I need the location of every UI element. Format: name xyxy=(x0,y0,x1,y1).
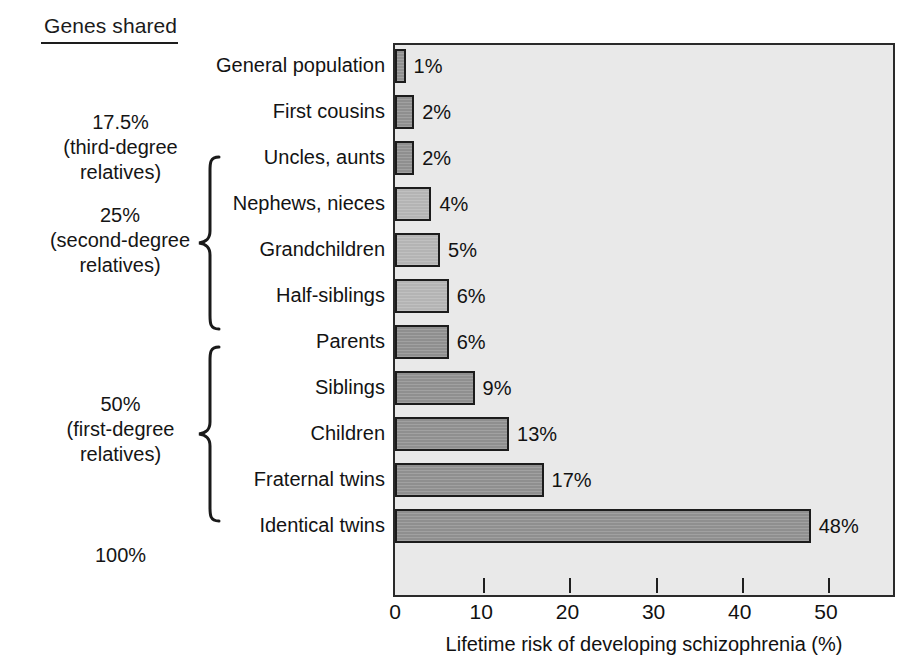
bars-layer: 1%2%2%4%5%6%6%9%13%17%48% xyxy=(395,45,893,595)
bar-row: 48% xyxy=(395,509,897,543)
category-label: Identical twins xyxy=(150,515,385,535)
bar-value-label: 4% xyxy=(439,194,468,214)
bar-value-label: 6% xyxy=(457,332,486,352)
category-label: Fraternal twins xyxy=(150,469,385,489)
bar-uncles-aunts xyxy=(395,141,414,175)
category-label: General population xyxy=(150,55,385,75)
bar-value-label: 2% xyxy=(422,102,451,122)
category-label: Children xyxy=(150,423,385,443)
x-tick-label: 20 xyxy=(556,601,579,622)
x-tick xyxy=(828,578,830,593)
category-label-column: General populationFirst cousinsUncles, a… xyxy=(150,44,385,597)
bar-fraternal-twins xyxy=(395,463,544,497)
category-label: Siblings xyxy=(150,377,385,397)
x-tick xyxy=(742,578,744,593)
bar-row: 6% xyxy=(395,279,897,313)
bar-row: 17% xyxy=(395,463,897,497)
x-axis-title: Lifetime risk of developing schizophreni… xyxy=(393,634,895,654)
chart-page: Genes shared 17.5%(third-degreerelatives… xyxy=(0,0,917,670)
bar-value-label: 2% xyxy=(422,148,451,168)
x-tick-label: 30 xyxy=(642,601,665,622)
bar-row: 2% xyxy=(395,95,897,129)
bar-first-cousins xyxy=(395,95,414,129)
x-tick-label: 10 xyxy=(470,601,493,622)
x-tick xyxy=(656,578,658,593)
category-label: Uncles, aunts xyxy=(150,147,385,167)
category-label: Half-siblings xyxy=(150,285,385,305)
bar-row: 1% xyxy=(395,49,897,83)
plot-area: 1%2%2%4%5%6%6%9%13%17%48% xyxy=(393,43,895,597)
bar-row: 5% xyxy=(395,233,897,267)
bar-general-population xyxy=(395,49,406,83)
bar-row: 6% xyxy=(395,325,897,359)
x-tick xyxy=(569,578,571,593)
bar-children xyxy=(395,417,509,451)
bar-value-label: 48% xyxy=(819,516,859,536)
x-tick xyxy=(483,578,485,593)
bar-value-label: 1% xyxy=(414,56,443,76)
bar-row: 13% xyxy=(395,417,897,451)
x-tick-label: 40 xyxy=(728,601,751,622)
bar-value-label: 6% xyxy=(457,286,486,306)
bar-nephews-nieces xyxy=(395,187,431,221)
x-tick-label: 50 xyxy=(814,601,837,622)
bar-value-label: 9% xyxy=(483,378,512,398)
bar-value-label: 13% xyxy=(517,424,557,444)
bar-grandchildren xyxy=(395,233,440,267)
bar-row: 9% xyxy=(395,371,897,405)
genes-shared-title: Genes shared xyxy=(44,14,177,38)
bar-identical-twins xyxy=(395,509,811,543)
bar-half-siblings xyxy=(395,279,449,313)
bar-value-label: 17% xyxy=(552,470,592,490)
category-label: First cousins xyxy=(150,101,385,121)
bar-value-label: 5% xyxy=(448,240,477,260)
bar-row: 4% xyxy=(395,187,897,221)
category-label: Nephews, nieces xyxy=(150,193,385,213)
bar-row: 2% xyxy=(395,141,897,175)
x-tick-label: 0 xyxy=(389,601,401,622)
bar-siblings xyxy=(395,371,475,405)
bar-parents xyxy=(395,325,449,359)
category-label: Parents xyxy=(150,331,385,351)
category-label: Grandchildren xyxy=(150,239,385,259)
